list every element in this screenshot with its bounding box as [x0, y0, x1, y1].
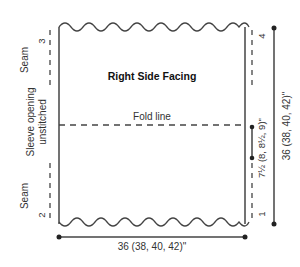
panel-top-wavy-edge	[59, 23, 249, 31]
corner-number-4: 4	[256, 33, 267, 38]
fold-offset-top-dot	[250, 125, 255, 130]
panel-title: Right Side Facing	[108, 70, 197, 82]
width-right-dot	[243, 235, 248, 240]
fold-offset-bottom-dot	[250, 156, 255, 161]
sleeve-opening-label-line1: Sleeve opening	[25, 88, 36, 157]
fold-offset-label: 7½ (8, 8½, 9)"	[256, 118, 267, 178]
corner-number-2: 2	[36, 212, 47, 217]
width-dimension-label: 36 (38, 40, 42)"	[118, 241, 187, 252]
panel-bottom-wavy-edge	[59, 218, 249, 226]
bottom-seam-label: Seam	[19, 183, 30, 209]
height-bottom-dot	[272, 222, 277, 227]
garment-schematic: Right Side Facing Fold line 36 (38, 40, …	[0, 0, 300, 267]
fold-line-label: Fold line	[133, 111, 171, 122]
corner-number-3: 3	[36, 38, 47, 43]
height-dimension-label: 36 (38, 40, 42)"	[281, 91, 292, 160]
sleeve-opening-label-line2: unstitched	[37, 99, 48, 145]
width-left-dot	[57, 235, 62, 240]
corner-number-1: 1	[256, 211, 267, 216]
height-top-dot	[272, 26, 277, 31]
top-seam-label: Seam	[19, 47, 30, 73]
